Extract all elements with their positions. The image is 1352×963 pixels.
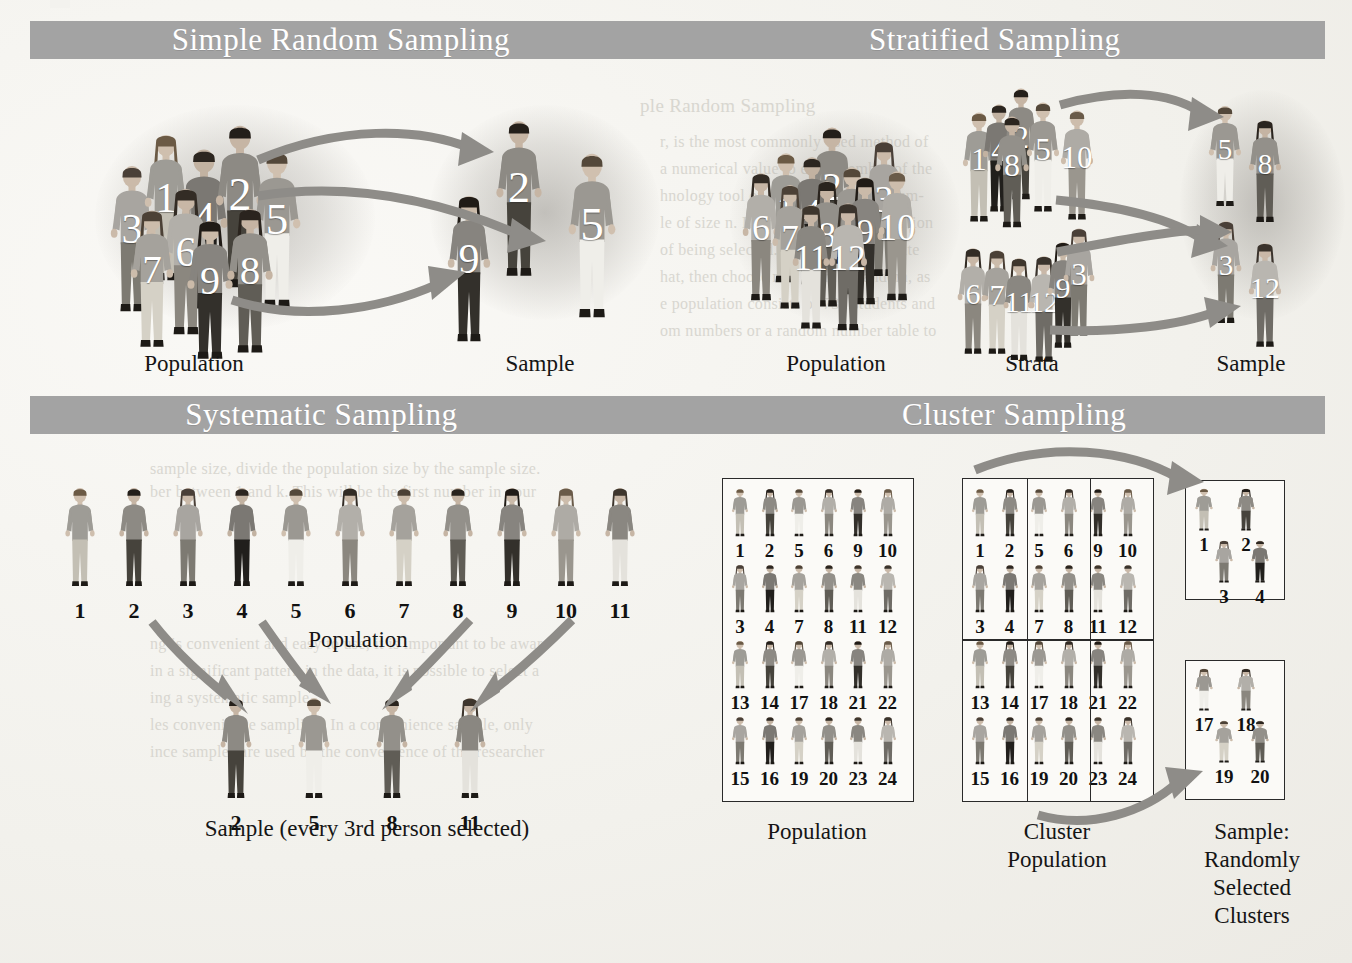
person-number-label: 20 (1251, 766, 1270, 788)
person-number-label: 7 (794, 616, 804, 638)
cluster-sample-box-1: 1 2 3 (1185, 480, 1285, 600)
person-number-label: 7 (1034, 616, 1044, 638)
population-person-1 (729, 487, 751, 539)
person-number-label: 4 (237, 598, 248, 624)
person-number-label: 2 (765, 540, 775, 562)
sample-person-11 (449, 694, 491, 804)
person-number-label: 5 (1034, 540, 1044, 562)
systematic-sample-label: Sample (every 3rd person selected) (205, 815, 529, 843)
person-number-label: 8 (453, 598, 464, 624)
person-number-label: 18 (819, 692, 838, 714)
person-number-label: 23 (1089, 768, 1108, 790)
person-number-label: 1 (75, 598, 86, 624)
person-number-label: 17 (790, 692, 809, 714)
sample-person-5 (293, 694, 335, 804)
cluster-population-person-12 (1117, 563, 1139, 615)
person-number-label: 6 (345, 598, 356, 624)
population-person-10: 10 (872, 166, 922, 308)
cluster-population-person-24 (1117, 715, 1139, 767)
population-person-13 (729, 639, 751, 691)
person-number-label: 17 (1030, 692, 1049, 714)
panel-title-cluster: Cluster Sampling (902, 397, 1126, 433)
person-number-label: 6 (1064, 540, 1074, 562)
person-number-label: 16 (760, 768, 779, 790)
sample-person-8 (371, 694, 413, 804)
sample-cluster-2-person-17 (1192, 667, 1216, 713)
population-person-12: 12 (822, 198, 874, 338)
person-number-label: 19 (1215, 766, 1234, 788)
sample-person-2 (215, 694, 257, 804)
population-person-7 (384, 484, 424, 592)
person-number-label: 11 (1089, 616, 1107, 638)
person-number-label: 21 (1089, 692, 1108, 714)
population-person-4 (759, 563, 781, 615)
population-person-8 (818, 563, 840, 615)
person-number-label: 16 (1000, 768, 1019, 790)
person-number-label: 7 (399, 598, 410, 624)
systematic-population-label: Population (308, 626, 408, 654)
population-person-12 (877, 563, 899, 615)
person-number-label: 3 (975, 616, 985, 638)
cluster-population-person-17 (1028, 639, 1050, 691)
banner-row-top: Simple Random Sampling Stratified Sampli… (30, 21, 1325, 59)
person-number-label: 4 (1005, 616, 1015, 638)
cluster-population-person-6 (1058, 487, 1080, 539)
cluster-population-person-2 (999, 487, 1021, 539)
population-person-10 (877, 487, 899, 539)
sample-cluster-2-person-20 (1248, 719, 1272, 765)
systematic-population-row: 1 2 3 (60, 480, 660, 610)
person-number-label: 12 (878, 616, 897, 638)
person-number-label: 21 (849, 692, 868, 714)
person-number-label: 15 (731, 768, 750, 790)
person-number-label: 8 (824, 616, 834, 638)
person-number-label: 11 (610, 598, 631, 624)
population-person-22 (877, 639, 899, 691)
cluster-population-person-19 (1028, 715, 1050, 767)
person-number-label: 23 (849, 768, 868, 790)
simple-random-sample-group: 2 9 5 (430, 105, 670, 335)
population-person-21 (847, 639, 869, 691)
person-number-label: 14 (1000, 692, 1019, 714)
stratified-population-group: 1 2 4 (730, 110, 970, 335)
person-number-label: 3 (735, 616, 745, 638)
population-person-11 (600, 484, 640, 592)
person-number-label: 20 (819, 768, 838, 790)
person-number-label: 3 (1219, 586, 1229, 608)
person-number-label: 11 (849, 616, 867, 638)
person-number-label: 19 (1030, 768, 1049, 790)
person-number-label: 10 (1118, 540, 1137, 562)
cluster-population-person-3 (969, 563, 991, 615)
panel-title-simple-random: Simple Random Sampling (172, 22, 510, 58)
sample-cluster-2-person-18 (1234, 667, 1258, 713)
population-person-6 (330, 484, 370, 592)
panel-title-systematic: Systematic Sampling (185, 397, 457, 433)
sample-cluster-1-person-4 (1248, 539, 1272, 585)
person-number-label: 13 (971, 692, 990, 714)
person-number-label: 1 (1199, 534, 1209, 556)
cluster-sample-box-2: 17 18 (1185, 660, 1285, 800)
simple-random-population-label: Population (144, 350, 244, 378)
person-number-label: 9 (507, 598, 518, 624)
person-number-label: 13 (731, 692, 750, 714)
population-person-6 (818, 487, 840, 539)
person-number-label: 12 (1118, 616, 1137, 638)
population-person-17 (788, 639, 810, 691)
population-person-18 (818, 639, 840, 691)
population-person-19 (788, 715, 810, 767)
person-number-label: 17 (1195, 714, 1214, 736)
sample-cluster-1-person-1 (1192, 487, 1216, 533)
systematic-sample-row: 2 5 8 (215, 690, 525, 820)
panel-title-stratified: Stratified Sampling (869, 22, 1120, 58)
cluster-sample-label: Sample: Randomly Selected Clusters (1204, 818, 1300, 930)
population-person-5 (276, 484, 316, 592)
sample-person-3: 3 (1205, 217, 1247, 329)
person-number-label: 9 (1093, 540, 1103, 562)
population-person-10 (546, 484, 586, 592)
person-number-label: 19 (790, 768, 809, 790)
population-person-4 (222, 484, 262, 592)
sample-person-12: 12 (1243, 239, 1287, 353)
cluster-population-person-18 (1058, 639, 1080, 691)
cluster-population-person-8 (1058, 563, 1080, 615)
person-number-label: 10 (878, 540, 897, 562)
stratified-sample-stratum-1: 5 8 (1195, 100, 1315, 220)
